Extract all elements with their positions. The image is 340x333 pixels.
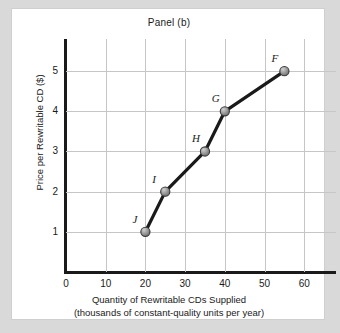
x-axis-title: Quantity of Rewritable CDs Supplied (tho… [12, 293, 326, 319]
data-point-marker [200, 147, 209, 156]
data-point-marker [220, 107, 229, 116]
y-axis-title: Price per Rewritable CD ($) [34, 58, 45, 208]
data-point-label: H [192, 132, 200, 144]
plot-area [66, 39, 336, 272]
data-point-label: G [212, 92, 220, 104]
x-tick-label: 50 [250, 278, 280, 289]
data-point-label: J [132, 213, 137, 225]
x-tick-label: 30 [170, 278, 200, 289]
x-tick-label: 60 [289, 278, 319, 289]
x-tick-label: 10 [91, 278, 121, 289]
x-axis-title-line1: Quantity of Rewritable CDs Supplied [92, 294, 246, 305]
x-axis-title-line2: (thousands of constant-quality units per… [12, 306, 326, 319]
y-tick-label: 1 [36, 226, 58, 237]
chart-title: Panel (b) [12, 17, 326, 28]
x-tick-label: 0 [51, 278, 81, 289]
x-tick-label: 20 [130, 278, 160, 289]
supply-curve [66, 39, 336, 272]
data-point-label: I [152, 173, 156, 185]
x-tick-label: 40 [210, 278, 240, 289]
data-point-marker [161, 187, 170, 196]
chart-card: Panel (b) 12345 0102030405060 JIHGF Pric… [11, 8, 325, 320]
data-point-marker [280, 67, 289, 76]
data-point-label: F [271, 52, 278, 64]
data-point-marker [141, 227, 150, 236]
